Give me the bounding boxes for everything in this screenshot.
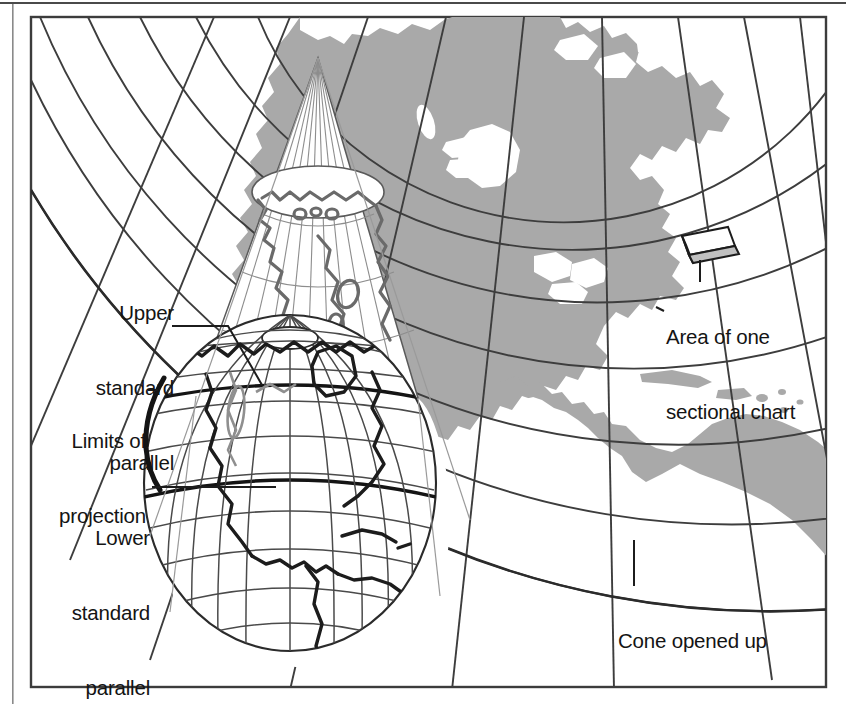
label-upper-standard-parallel-line1: Upper	[28, 300, 174, 325]
label-lower-standard-parallel-line1: Lower	[14, 525, 150, 550]
label-lower-standard-parallel: Lower standard parallel	[14, 475, 150, 708]
label-cone-opened-up: Cone opened up	[618, 578, 838, 678]
label-area-of-one-sectional-chart-line1: Area of one	[666, 324, 846, 349]
label-lower-standard-parallel-line3: parallel	[14, 675, 150, 700]
label-lower-standard-parallel-line2: standard	[14, 600, 150, 625]
page-top-rule	[0, 2, 846, 4]
label-cone-opened-up-line1: Cone opened up	[618, 628, 838, 653]
label-limits-of-projection-line1: Limits of	[14, 428, 146, 453]
label-area-of-one-sectional-chart-line2: sectional chart	[666, 399, 846, 424]
label-area-of-one-sectional-chart: Area of one sectional chart	[666, 274, 846, 449]
